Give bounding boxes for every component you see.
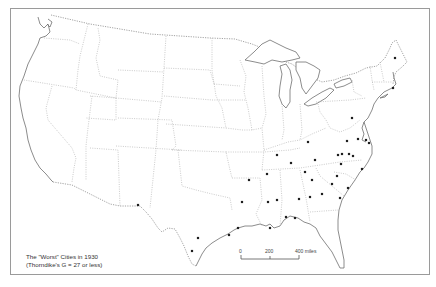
city-marker [298,198,300,200]
city-marker [197,237,199,239]
city-marker [357,138,359,140]
city-marker [290,162,292,164]
city-marker [294,217,296,219]
city-marker [276,154,278,156]
lake-michigan [279,64,292,108]
scale-label-200: 200 [265,248,273,254]
map-frame [11,9,430,275]
city-marker [309,196,311,198]
city-marker [228,234,230,236]
city-marker [248,179,250,181]
city-marker [267,201,269,203]
city-marker [341,153,343,155]
city-marker [368,142,370,144]
city-marker [266,173,268,175]
city-marker [337,154,339,156]
state-borders [24,24,392,226]
city-marker [339,197,341,199]
city-marker [392,87,394,89]
us-map [0,0,436,287]
city-marker [394,57,396,59]
city-marker [361,168,363,170]
city-marker [307,141,309,143]
city-marker [346,140,348,142]
city-marker [304,171,306,173]
city-marker [241,201,243,203]
city-marker [340,163,342,165]
scale-label-400: 400 miles [295,248,316,254]
city-marker [285,216,287,218]
city-marker [347,187,349,189]
city-marker [321,193,323,195]
caption-subtitle: (Thorndike's G = 27 or less) [26,261,102,269]
scale-bar [241,255,299,259]
lake-huron [296,62,320,94]
scale-label-0: 0 [239,248,242,254]
gulf-atlantic-coastline [196,72,396,268]
caption-title: The "Worst" Cities in 1930 [26,253,102,261]
city-marker [331,183,333,185]
puget-sound [47,19,52,27]
canada-border [51,15,407,84]
city-marker [351,117,353,119]
city-marker [314,159,316,161]
city-marker [137,204,139,206]
city-marker [276,199,278,201]
map-caption: The "Worst" Cities in 1930 (Thorndike's … [26,253,102,268]
city-marker [352,155,354,157]
city-marker [191,250,193,252]
lake-superior [245,40,300,64]
city-marker [269,227,271,229]
city-marker [311,179,313,181]
city-marker [365,139,367,141]
city-marker [237,227,239,229]
city-markers [137,57,396,252]
city-marker [348,153,350,155]
lake-ontario [334,78,352,88]
city-marker [336,175,338,177]
pacific-coastline [19,17,53,182]
